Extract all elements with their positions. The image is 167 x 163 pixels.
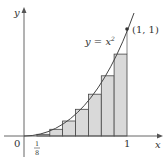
rect-6 bbox=[88, 94, 101, 136]
tick-one-label: 1 bbox=[124, 138, 130, 149]
rect-7 bbox=[101, 76, 114, 136]
x-axis-label: x bbox=[155, 139, 161, 150]
riemann-rectangles bbox=[37, 54, 127, 136]
y-axis-arrow-icon bbox=[22, 7, 27, 13]
point-label: (1, 1) bbox=[132, 24, 159, 35]
riemann-sum-figure: (1, 1) y = x2 y x 0 1 1 8 bbox=[0, 0, 167, 163]
origin-label: 0 bbox=[14, 138, 20, 149]
svg-text:1: 1 bbox=[35, 140, 39, 148]
svg-text:8: 8 bbox=[35, 149, 39, 157]
curve-label: y = x2 bbox=[84, 35, 115, 47]
tick-eighth-label: 1 8 bbox=[34, 140, 40, 157]
rect-8 bbox=[114, 54, 127, 136]
y-axis-label: y bbox=[13, 7, 20, 18]
rect-5 bbox=[76, 109, 89, 136]
riemann-sum-plot: (1, 1) y = x2 y x 0 1 1 8 bbox=[0, 0, 167, 163]
point-1-1 bbox=[125, 27, 129, 31]
x-axis-arrow-icon bbox=[157, 134, 163, 139]
